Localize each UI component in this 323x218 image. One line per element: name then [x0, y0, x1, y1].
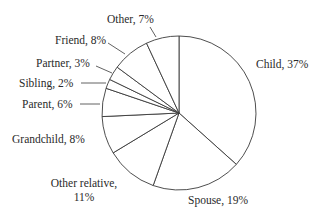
slice-label: Other, 7%	[107, 13, 154, 26]
slice-label: Spouse, 19%	[188, 194, 248, 207]
pie-slices	[102, 36, 256, 190]
leader-line	[108, 43, 125, 54]
slice-label: Grandchild, 8%	[12, 133, 85, 146]
slice-label: Partner, 3%	[36, 57, 90, 70]
pie-chart: Child, 37%Spouse, 19%Other relative,11%G…	[0, 0, 323, 218]
slice-label: Parent, 6%	[22, 98, 73, 111]
slice-label: Sibling, 2%	[19, 77, 74, 90]
slice-label: Child, 37%	[256, 58, 309, 71]
leader-line	[96, 66, 112, 73]
leader-line	[150, 27, 156, 37]
slice-label: Friend, 8%	[55, 34, 107, 47]
slice-label: Other relative,11%	[51, 177, 118, 203]
